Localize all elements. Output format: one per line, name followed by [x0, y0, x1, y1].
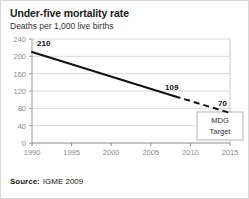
chart-card: Under-five mortality rate Deaths per 1,0…	[0, 0, 249, 199]
data-label-70: 70	[218, 99, 227, 108]
x-tick-2015: 2015	[222, 148, 239, 157]
x-tick-2010: 2010	[182, 148, 199, 157]
y-tick-120: 120	[13, 87, 26, 96]
x-tick-2005: 2005	[142, 148, 159, 157]
y-tick-200: 200	[13, 52, 26, 61]
x-tick-1995: 1995	[63, 148, 80, 157]
chart-subtitle: Deaths per 1,000 live births	[10, 21, 113, 31]
data-label-109: 109	[165, 83, 179, 92]
y-tick-0: 0	[22, 139, 26, 148]
page-title: Under-five mortality rate	[10, 7, 129, 19]
mdg-target-annotation: MDG Target	[197, 112, 243, 140]
x-tick-1990: 1990	[24, 148, 41, 157]
chart-plot-area: 240 200 160 120 80 40 0 1990 1995	[1, 34, 249, 169]
x-tick-2000: 2000	[103, 148, 120, 157]
mdg-target-line2: Target	[210, 127, 232, 136]
y-tick-240: 240	[13, 35, 26, 44]
mortality-line-chart: 240 200 160 120 80 40 0 1990 1995	[1, 34, 249, 169]
mdg-target-line1: MDG	[211, 116, 229, 125]
source-value: IGME 2009	[43, 177, 83, 186]
y-tick-80: 80	[18, 104, 26, 113]
data-label-210: 210	[37, 39, 51, 48]
y-tick-160: 160	[13, 70, 26, 79]
source-label: Source:	[10, 177, 40, 186]
source-note: Source:IGME 2009	[10, 177, 83, 186]
x-axis-labels: 1990 1995 2000 2005 2010 2015	[24, 148, 239, 157]
y-tick-40: 40	[18, 122, 26, 131]
y-axis-labels: 240 200 160 120 80 40 0	[13, 35, 26, 148]
